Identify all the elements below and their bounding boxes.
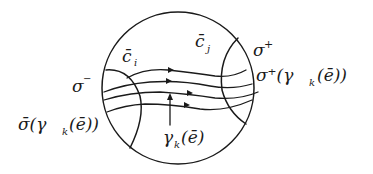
left-arc-sigma-minus [106,70,141,148]
svg-text:σ̄(γ: σ̄(γ [18,114,47,134]
svg-text:j: j [205,43,210,54]
svg-text:σ⁺(γ: σ⁺(γ [256,65,294,85]
svg-text:(ē): (ē) [181,127,204,147]
arrowhead-2 [166,78,172,84]
diagram-canvas: c̄ i c̄ j σ − σ + σ⁺(γ k (ē)) σ̄(γ k (ē)… [0,0,373,174]
label-gamma-k: γ k (ē) [163,127,204,150]
label-c-i: c̄ i [122,46,137,68]
svg-text:c̄: c̄ [195,31,205,51]
flow-curve-4 [107,100,252,112]
arrowhead-1 [168,67,174,73]
label-sigma-plus-gamma: σ⁺(γ k (ē)) [256,65,347,88]
flow-curve-1 [127,70,246,78]
svg-text:i: i [134,57,137,68]
svg-text:−: − [83,73,91,84]
svg-text:(ē)): (ē)) [317,65,347,85]
label-sigma-minus: σ − [72,73,91,96]
right-arc-sigma-plus [221,38,246,124]
svg-text:c̄: c̄ [122,46,132,66]
svg-text:k: k [174,139,180,150]
label-c-j: c̄ j [195,31,210,54]
flow-curve-2 [104,82,252,93]
flow-curve-3 [104,92,258,100]
svg-text:k: k [309,77,315,88]
svg-text:(ē)): (ē)) [69,114,99,134]
label-sigma-minus-gamma: σ̄(γ k (ē)) [18,114,99,137]
svg-text:γ: γ [163,127,174,147]
svg-text:k: k [62,126,68,137]
svg-text:+: + [264,38,273,51]
label-sigma-plus: σ + [253,38,273,60]
pointer-arrowhead [167,93,173,100]
